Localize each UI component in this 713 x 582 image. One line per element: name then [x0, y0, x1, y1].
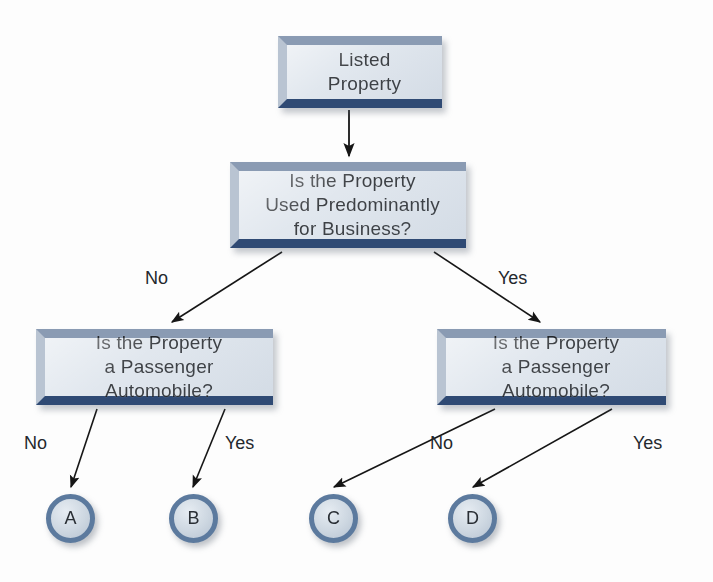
node-passenger-automobile-left-label: Is the Property a Passenger Automobile?: [45, 331, 273, 403]
node-passenger-automobile-right-label: Is the Property a Passenger Automobile?: [446, 331, 666, 403]
terminal-node-c-label: C: [327, 508, 340, 529]
edge-label-no-auto-right: No: [430, 433, 453, 454]
connector-auto-right-to-c: [334, 409, 495, 487]
edge-label-yes-business: Yes: [498, 268, 527, 289]
connector-auto-right-to-d: [473, 409, 612, 487]
node-used-predominantly-for-business[interactable]: Is the Property Used Predominantly for B…: [230, 162, 466, 248]
node-passenger-automobile-left[interactable]: Is the Property a Passenger Automobile?: [36, 329, 273, 405]
terminal-node-b-label: B: [187, 508, 199, 529]
terminal-node-b[interactable]: B: [169, 494, 218, 543]
terminal-node-d-label: D: [466, 508, 479, 529]
connector-auto-left-to-b: [193, 409, 225, 487]
edge-label-yes-auto-left: Yes: [225, 433, 254, 454]
node-listed-property-label: Listed Property: [287, 48, 442, 96]
node-passenger-automobile-right[interactable]: Is the Property a Passenger Automobile?: [437, 329, 666, 405]
terminal-node-a-label: A: [64, 508, 76, 529]
connector-business-to-auto-left: [172, 252, 282, 322]
node-listed-property[interactable]: Listed Property: [278, 36, 442, 108]
edge-label-no-business: No: [145, 268, 168, 289]
connector-auto-left-to-a: [71, 409, 97, 487]
terminal-node-d[interactable]: D: [448, 494, 497, 543]
edge-label-no-auto-left: No: [24, 433, 47, 454]
edge-label-yes-auto-right: Yes: [633, 433, 662, 454]
node-used-predominantly-for-business-label: Is the Property Used Predominantly for B…: [239, 169, 466, 241]
terminal-node-c[interactable]: C: [309, 494, 358, 543]
flowchart-canvas: Listed Property Is the Property Used Pre…: [0, 0, 713, 582]
terminal-node-a[interactable]: A: [46, 494, 95, 543]
